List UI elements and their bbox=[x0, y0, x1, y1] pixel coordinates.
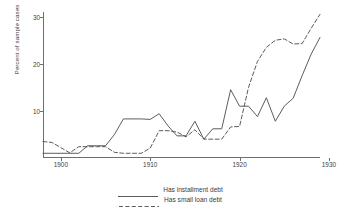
legend-label: Has installment debt bbox=[163, 186, 223, 193]
y-tick-label: 10 bbox=[33, 107, 40, 114]
x-tick-label: 1920 bbox=[232, 161, 246, 168]
series-line bbox=[43, 14, 320, 153]
y-tick-label: 30 bbox=[33, 13, 40, 20]
y-axis-label: Percent of sample cases bbox=[13, 0, 20, 100]
x-tick-mark bbox=[329, 158, 330, 161]
legend-label: Has small loan debt bbox=[164, 196, 222, 203]
x-tick-mark bbox=[240, 158, 241, 161]
series-lines bbox=[43, 12, 320, 158]
legend-key-icon bbox=[119, 196, 159, 203]
y-tick-label: 20 bbox=[33, 60, 40, 67]
plot-area: 102030 1900191019201930 bbox=[43, 12, 320, 158]
legend-item: Has installment debt bbox=[118, 186, 223, 193]
x-tick-mark bbox=[61, 158, 62, 161]
legend-item: Has small loan debt bbox=[119, 196, 222, 203]
series-line bbox=[43, 37, 320, 153]
chart-legend: Has installment debtHas small loan debt bbox=[0, 186, 341, 203]
legend-key-icon bbox=[118, 186, 158, 193]
x-tick-mark bbox=[150, 158, 151, 161]
x-tick-label: 1900 bbox=[54, 161, 68, 168]
x-tick-label: 1930 bbox=[322, 161, 336, 168]
x-tick-label: 1910 bbox=[143, 161, 157, 168]
chart-figure: Percent of sample cases 102030 190019101… bbox=[0, 0, 341, 223]
